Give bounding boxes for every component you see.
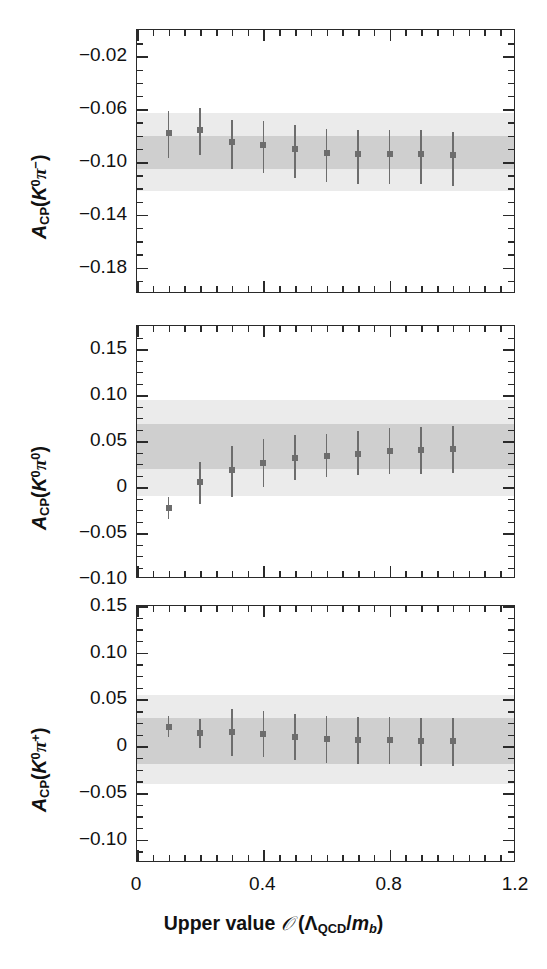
x-minor-tick [295, 606, 297, 612]
x-minor-tick [295, 326, 297, 332]
y-minor-tick [508, 688, 514, 689]
marker [260, 142, 266, 148]
y-minor-tick [137, 418, 143, 419]
y-tick-label: −0.06 [41, 98, 127, 117]
y-major-tick [503, 653, 514, 655]
y-tick-label: 0.10 [41, 642, 127, 661]
y-minor-tick [137, 758, 143, 759]
x-minor-tick [184, 286, 186, 292]
y-minor-tick [137, 499, 143, 500]
x-minor-tick [279, 606, 281, 612]
y-minor-tick [137, 770, 143, 771]
x-minor-tick [342, 606, 344, 612]
y-minor-tick [508, 676, 514, 677]
y-minor-tick [137, 228, 143, 229]
x-minor-tick [216, 571, 218, 577]
y-tick-label: 0.05 [41, 688, 127, 707]
x-minor-tick [500, 606, 502, 612]
plot-frame-1 [136, 325, 515, 578]
x-minor-tick [184, 30, 186, 36]
x-minor-tick [484, 606, 486, 612]
y-minor-tick [137, 510, 143, 511]
y-major-tick [503, 441, 514, 443]
x-minor-tick [437, 286, 439, 292]
x-minor-tick [200, 326, 202, 332]
x-major-tick [390, 850, 392, 861]
x-major-tick [263, 850, 265, 861]
x-minor-tick [342, 30, 344, 36]
x-minor-tick [153, 855, 155, 861]
y-tick-label: 0.10 [41, 384, 127, 403]
y-major-tick [137, 215, 148, 217]
y-minor-tick [508, 188, 514, 189]
y-minor-tick [508, 805, 514, 806]
y-minor-tick [508, 281, 514, 282]
x-minor-tick [421, 30, 423, 36]
error-bar [389, 130, 391, 184]
x-minor-tick [484, 326, 486, 332]
y-minor-tick [137, 361, 143, 362]
x-minor-tick [405, 606, 407, 612]
x-tick-label: 0.4 [232, 874, 292, 893]
error-bar [420, 130, 422, 184]
x-minor-tick [421, 286, 423, 292]
y-minor-tick [137, 188, 143, 189]
x-minor-tick [437, 30, 439, 36]
y-major-tick [503, 162, 514, 164]
x-major-tick [263, 566, 265, 577]
x-minor-tick [216, 855, 218, 861]
x-minor-tick [153, 30, 155, 36]
y-tick-label: −0.05 [41, 522, 127, 541]
x-minor-tick [311, 855, 313, 861]
x-minor-tick [169, 326, 171, 332]
x-minor-tick [374, 606, 376, 612]
y-axis-title-2: ACP(K0π+) [30, 727, 52, 811]
y-tick-label: −0.05 [41, 782, 127, 801]
y-minor-tick [508, 453, 514, 454]
y-major-tick [137, 268, 148, 270]
marker [355, 737, 361, 743]
y-minor-tick [508, 664, 514, 665]
x-major-tick [137, 566, 139, 577]
x-minor-tick [469, 571, 471, 577]
x-minor-tick [169, 855, 171, 861]
x-minor-tick [437, 606, 439, 612]
x-minor-tick [216, 606, 218, 612]
marker [229, 729, 235, 735]
y-minor-tick [137, 641, 143, 642]
x-major-tick [137, 326, 139, 337]
x-minor-tick [184, 606, 186, 612]
x-minor-tick [184, 571, 186, 577]
y-major-tick [137, 746, 148, 748]
x-minor-tick [232, 326, 234, 332]
y-tick-label: −0.18 [41, 257, 127, 276]
x-minor-tick [469, 606, 471, 612]
y-minor-tick [508, 476, 514, 477]
x-minor-tick [358, 286, 360, 292]
x-major-tick [263, 326, 265, 337]
x-minor-tick [421, 855, 423, 861]
y-minor-tick [508, 499, 514, 500]
x-minor-tick [469, 30, 471, 36]
y-major-tick [137, 109, 148, 111]
y-axis-title-1: ACP(K0π0) [30, 445, 52, 529]
y-minor-tick [137, 122, 143, 123]
x-minor-tick [405, 571, 407, 577]
x-major-tick [390, 326, 392, 337]
x-minor-tick [405, 30, 407, 36]
x-minor-tick [169, 286, 171, 292]
x-minor-tick [248, 606, 250, 612]
x-minor-tick [184, 326, 186, 332]
x-minor-tick [153, 606, 155, 612]
y-tick-label: 0.15 [41, 338, 127, 357]
x-minor-tick [232, 30, 234, 36]
y-minor-tick [508, 361, 514, 362]
y-major-tick [137, 606, 148, 608]
x-axis-title: Upper value 𝒪 (ΛQCD/mb) [0, 914, 547, 936]
x-minor-tick [216, 326, 218, 332]
marker [229, 467, 235, 473]
y-minor-tick [137, 202, 143, 203]
y-minor-tick [508, 735, 514, 736]
x-minor-tick [453, 855, 455, 861]
y-major-tick [137, 441, 148, 443]
